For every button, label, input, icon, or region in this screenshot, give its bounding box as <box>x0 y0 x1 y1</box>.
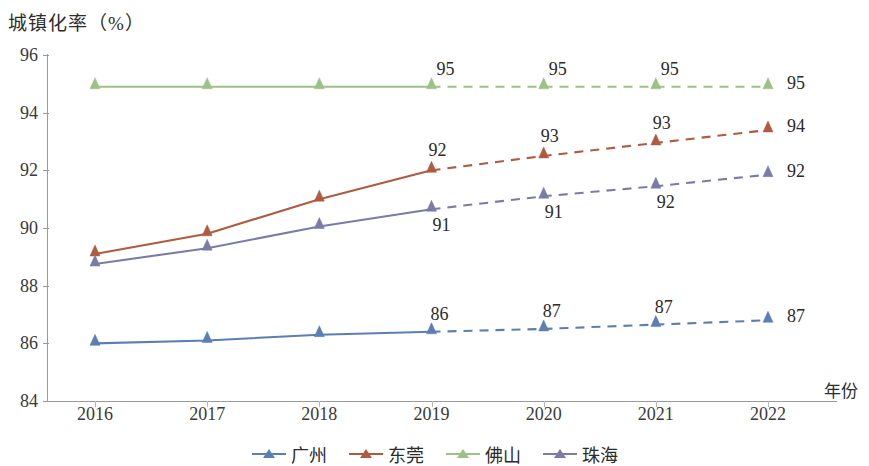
legend-triangle-icon <box>263 449 275 458</box>
y-axis-tick-label: 86 <box>20 333 38 354</box>
data-point-label: 93 <box>653 112 671 133</box>
x-axis-tick-mark <box>95 401 96 407</box>
series-marker-triangle <box>763 166 773 177</box>
y-axis-tick-label: 84 <box>20 391 38 412</box>
x-axis-tick-label: 2018 <box>301 404 337 425</box>
y-axis-tick-mark <box>43 286 49 287</box>
x-axis-line <box>47 401 837 402</box>
series-marker-triangle <box>202 78 212 89</box>
data-point-label: 95 <box>549 58 567 79</box>
series-marker-triangle <box>763 78 773 89</box>
series-marker-triangle <box>314 190 324 201</box>
series-marker-triangle <box>90 334 100 345</box>
data-point-label: 94 <box>787 115 805 136</box>
x-axis-tick-label: 2017 <box>189 404 225 425</box>
legend-item-3[interactable]: 珠海 <box>543 441 618 466</box>
series-marker-triangle <box>314 326 324 337</box>
x-axis-tick-mark <box>544 401 545 407</box>
x-axis-tick-label: 2016 <box>77 404 113 425</box>
x-axis-tick-mark <box>207 401 208 407</box>
data-point-label: 95 <box>787 72 805 93</box>
data-point-label: 87 <box>543 300 561 321</box>
series-marker-triangle <box>202 331 212 342</box>
y-axis-tick-label: 88 <box>20 275 38 296</box>
series-line-dashed <box>432 320 769 332</box>
legend-marker-icon <box>349 447 383 461</box>
series-marker-triangle <box>427 323 437 334</box>
x-axis-tick-label: 2021 <box>638 404 674 425</box>
data-point-label: 92 <box>657 192 675 213</box>
series-marker-triangle <box>427 78 437 89</box>
y-axis-tick-mark <box>43 401 49 402</box>
legend-item-0[interactable]: 广州 <box>252 441 327 466</box>
series-marker-triangle <box>763 311 773 322</box>
series-line-dashed <box>432 130 769 170</box>
series-marker-triangle <box>763 121 773 132</box>
data-point-label: 95 <box>661 58 679 79</box>
legend-item-1[interactable]: 东莞 <box>349 441 424 466</box>
legend-marker-icon <box>252 447 286 461</box>
series-marker-triangle <box>427 200 437 211</box>
x-axis-tick-mark <box>656 401 657 407</box>
x-axis-tick-mark <box>768 401 769 407</box>
y-axis-tick-label: 92 <box>20 160 38 181</box>
series-marker-triangle <box>539 147 549 158</box>
y-axis-tick-mark <box>43 55 49 56</box>
series-marker-triangle <box>427 161 437 172</box>
y-axis-tick-mark <box>43 343 49 344</box>
legend-label: 佛山 <box>485 441 521 466</box>
series-marker-triangle <box>202 225 212 236</box>
legend-triangle-icon <box>457 449 469 458</box>
legend-triangle-icon <box>554 449 566 458</box>
legend-triangle-icon <box>360 449 372 458</box>
series-marker-triangle <box>202 239 212 250</box>
series-marker-triangle <box>314 78 324 89</box>
data-point-label: 87 <box>787 306 805 327</box>
legend-label: 广州 <box>291 441 327 466</box>
y-axis-tick-label: 96 <box>20 45 38 66</box>
series-marker-triangle <box>539 78 549 89</box>
x-axis-tick-label: 2022 <box>750 404 786 425</box>
series-line-solid <box>95 332 432 344</box>
data-point-label: 93 <box>541 125 559 146</box>
series-marker-triangle <box>651 316 661 327</box>
y-axis-tick-label: 90 <box>20 218 38 239</box>
legend-label: 珠海 <box>582 441 618 466</box>
series-line-dashed <box>432 175 769 210</box>
y-axis-tick-label: 94 <box>20 102 38 123</box>
y-axis-tick-mark <box>43 113 49 114</box>
series-marker-triangle <box>651 78 661 89</box>
data-point-label: 91 <box>545 202 563 223</box>
x-axis-tick-label: 2020 <box>526 404 562 425</box>
x-axis-tick-mark <box>319 401 320 407</box>
series-marker-triangle <box>651 134 661 145</box>
series-marker-triangle <box>314 218 324 229</box>
y-axis-tick-mark <box>43 170 49 171</box>
series-marker-triangle <box>539 187 549 198</box>
y-axis-tick-mark <box>43 228 49 229</box>
data-point-label: 92 <box>787 160 805 181</box>
legend-label: 东莞 <box>388 441 424 466</box>
series-line-solid <box>95 170 432 254</box>
series-marker-triangle <box>651 177 661 188</box>
x-axis-tick-label: 2019 <box>414 404 450 425</box>
legend-marker-icon <box>543 447 577 461</box>
data-point-label: 92 <box>429 140 447 161</box>
legend-item-2[interactable]: 佛山 <box>446 441 521 466</box>
series-marker-triangle <box>539 320 549 331</box>
series-line-solid <box>95 209 432 264</box>
x-axis-tick-mark <box>432 401 433 407</box>
series-marker-triangle <box>90 78 100 89</box>
x-axis-title: 年份 <box>824 377 858 402</box>
data-point-label: 86 <box>431 303 449 324</box>
data-point-label: 87 <box>655 296 673 317</box>
chart-legend: 广州东莞佛山珠海 <box>0 442 869 466</box>
urbanization-rate-line-chart: 城镇化率（%） 年份 84868890929496 20162017201820… <box>0 0 869 466</box>
y-axis-title: 城镇化率（%） <box>8 8 145 35</box>
data-point-label: 95 <box>437 58 455 79</box>
legend-marker-icon <box>446 447 480 461</box>
series-marker-triangle <box>90 255 100 266</box>
data-point-label: 91 <box>433 215 451 236</box>
series-marker-triangle <box>90 245 100 256</box>
